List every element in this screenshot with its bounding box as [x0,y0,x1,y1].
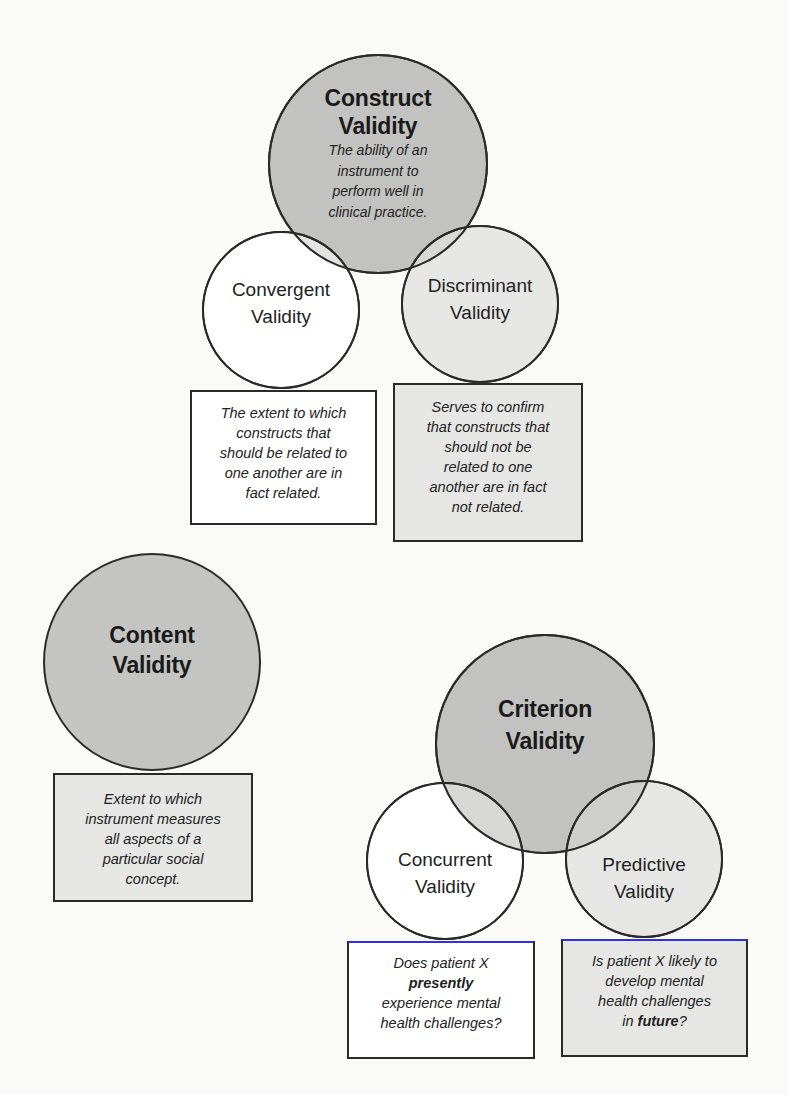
content-title-line1: Content [72,620,232,650]
predictive-validity-label: Predictive Validity [574,851,714,905]
concurrent-description-box: Does patient X presently experience ment… [347,941,535,1059]
concurrent-title-line1: Concurrent [375,846,515,873]
concurrent-validity-label: Concurrent Validity [375,846,515,900]
convergent-title-line2: Validity [211,303,351,330]
content-description-box: Extent to which instrument measures all … [53,773,253,902]
discriminant-title-line2: Validity [405,299,555,326]
criterion-validity-label: Criterion Validity [465,693,625,757]
predictive-title-line2: Validity [574,878,714,905]
construct-title-line1: Construct [298,84,458,112]
construct-title-line2: Validity [298,112,458,140]
convergent-validity-label: Convergent Validity [211,276,351,330]
content-title-line2: Validity [72,650,232,680]
validity-diagram: Construct Validity The ability of an ins… [0,0,788,1095]
predictive-description-box: Is patient X likely to develop mental he… [561,939,748,1057]
construct-description: The ability of an instrument to perform … [298,140,458,222]
discriminant-title-line1: Discriminant [405,272,555,299]
future-emphasis: future [638,1013,679,1029]
convergent-description-box: The extent to which constructs that shou… [190,390,377,525]
discriminant-description-box: Serves to confirm that constructs that s… [393,383,583,542]
content-validity-label: Content Validity [72,620,232,680]
discriminant-validity-label: Discriminant Validity [405,272,555,326]
presently-emphasis: presently [409,975,473,991]
criterion-title-line2: Validity [465,725,625,757]
predictive-title-line1: Predictive [574,851,714,878]
criterion-title-line1: Criterion [465,693,625,725]
concurrent-title-line2: Validity [375,873,515,900]
construct-validity-label: Construct Validity The ability of an ins… [298,84,458,222]
convergent-title-line1: Convergent [211,276,351,303]
